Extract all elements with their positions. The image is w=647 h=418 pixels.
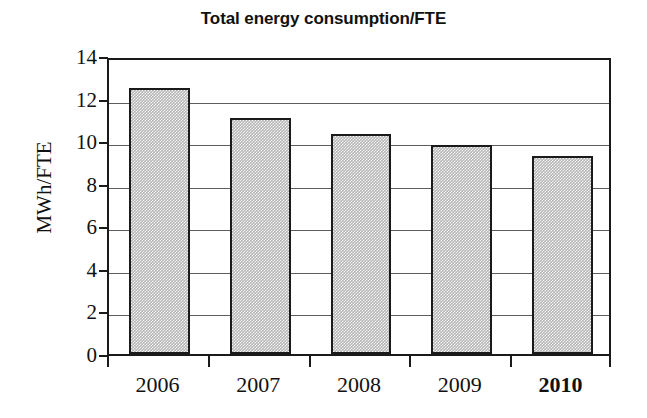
x-axis-tick-label-2006: 2006 <box>107 372 208 398</box>
y-axis-tick-label: 2 <box>51 302 97 323</box>
y-axis-tick-labels: 14121086420 <box>45 0 97 418</box>
x-axis-tick-label-2009: 2009 <box>409 372 510 398</box>
x-axis-tick-mark <box>309 356 311 367</box>
y-axis-tick-mark <box>99 312 108 314</box>
y-axis-tick-label: 0 <box>51 345 97 366</box>
y-axis-tick-mark <box>99 57 108 59</box>
plot-area <box>107 58 611 356</box>
y-axis-tick-mark <box>99 100 108 102</box>
y-axis-tick-label: 6 <box>51 217 97 238</box>
bar-2008 <box>331 134 392 354</box>
y-axis-tick-label: 14 <box>51 47 97 68</box>
y-axis-tick-mark <box>99 185 108 187</box>
x-axis-tick-mark <box>510 356 512 367</box>
x-axis-tick-mark <box>409 356 411 367</box>
bar-2009 <box>431 145 492 354</box>
y-axis-tick-mark <box>99 270 108 272</box>
x-axis-tick-mark <box>107 356 109 367</box>
x-axis-tick-mark <box>208 356 210 367</box>
y-axis-tick-label: 10 <box>51 132 97 153</box>
x-axis-tick-label-2007: 2007 <box>208 372 309 398</box>
y-axis-tick-label: 8 <box>51 175 97 196</box>
y-axis-tick-mark <box>99 227 108 229</box>
y-axis-tick-mark <box>99 142 108 144</box>
y-axis-tick-label: 12 <box>51 90 97 111</box>
x-axis-tick-mark <box>609 356 611 367</box>
x-axis-tick-label-2008: 2008 <box>309 372 410 398</box>
bar-2006 <box>129 88 190 354</box>
chart-title: Total energy consumption/FTE <box>0 9 647 29</box>
bar-2010 <box>532 156 593 354</box>
bar-chart: Total energy consumption/FTE MWh/FTE 141… <box>0 0 647 418</box>
y-axis-tick-label: 4 <box>51 260 97 281</box>
x-axis-tick-label-2010: 2010 <box>510 372 611 398</box>
bar-2007 <box>230 118 291 354</box>
